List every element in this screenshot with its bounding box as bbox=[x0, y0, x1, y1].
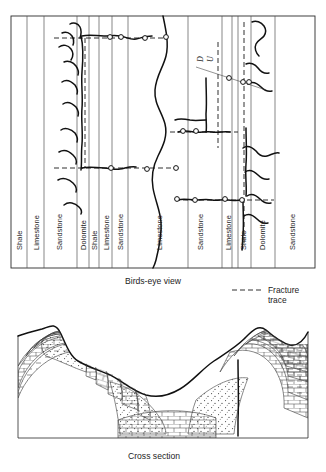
node bbox=[108, 35, 113, 40]
unit-label-dolomite-1: Dolomite bbox=[79, 220, 88, 250]
trace-right-wave-e bbox=[245, 171, 269, 180]
node bbox=[193, 198, 198, 203]
trace-right-wave-f bbox=[247, 195, 271, 204]
legend-label-line1: Fracture bbox=[268, 285, 300, 295]
unit-label-limestone-2: Limestone bbox=[102, 215, 111, 250]
node bbox=[194, 129, 199, 134]
trace-hook-j bbox=[64, 203, 81, 214]
trace-hook-e bbox=[62, 81, 77, 94]
trace-hook-d bbox=[64, 61, 78, 75]
unit-label-sandstone-1: Sandstone bbox=[55, 214, 64, 250]
trace-right-wave-b bbox=[246, 63, 269, 73]
trace-hook-f bbox=[63, 103, 78, 116]
unit-label-shale-3: Shale bbox=[239, 231, 248, 250]
unit-label-limestone-4: Limestone bbox=[224, 215, 233, 250]
trace-top-hook-b bbox=[62, 32, 74, 45]
trace-dolomite-west-edge bbox=[81, 36, 83, 170]
trace-hook-i bbox=[58, 179, 76, 192]
birdseye-caption: Birds-eye view bbox=[125, 276, 182, 286]
node bbox=[145, 167, 150, 172]
fracture-lines bbox=[54, 22, 274, 245]
trace-top-hook-c bbox=[59, 45, 73, 60]
node bbox=[174, 166, 179, 171]
node bbox=[240, 198, 245, 203]
unit-label-shale-2: Shale bbox=[90, 231, 99, 250]
unit-label-sandstone-3: Sandstone bbox=[196, 214, 205, 250]
node bbox=[175, 197, 180, 202]
unit-label-limestone-1: Limestone bbox=[32, 215, 41, 250]
trace-right-wave-top bbox=[252, 21, 266, 56]
trace-upper-horizontal bbox=[82, 35, 152, 39]
node bbox=[143, 36, 148, 41]
unit-label-limestone-3: Limestone bbox=[155, 215, 164, 250]
fault-down-label: D bbox=[196, 56, 205, 63]
section-strata bbox=[18, 328, 309, 438]
node bbox=[181, 129, 186, 134]
node bbox=[241, 80, 246, 85]
unit-label-dolomite-2: Dolomite bbox=[258, 220, 267, 250]
geologic-figure: D U Shale Limestone Sandstone Dolomite S… bbox=[0, 0, 326, 472]
legend: Fracture trace bbox=[232, 285, 300, 305]
outcrop-traces bbox=[58, 21, 279, 250]
trace-hook-h bbox=[59, 151, 76, 164]
node bbox=[227, 76, 232, 81]
figure-svg: D U Shale Limestone Sandstone Dolomite S… bbox=[0, 0, 326, 472]
cross-section-caption: Cross section bbox=[128, 451, 180, 461]
trace-right-vertical-a bbox=[246, 128, 247, 196]
fault-up-label: U bbox=[206, 55, 215, 62]
node bbox=[247, 80, 252, 85]
unit-label-sandstone-2: Sandstone bbox=[116, 214, 125, 250]
bedding-contacts bbox=[27, 16, 275, 268]
trace-right-wave-d bbox=[243, 147, 279, 157]
birdseye-view: D U Shale Limestone Sandstone Dolomite S… bbox=[11, 16, 315, 286]
unit-label-sandstone-4: Sandstone bbox=[288, 214, 297, 250]
trace-hook-g bbox=[61, 129, 77, 142]
node bbox=[109, 166, 114, 171]
node bbox=[164, 35, 169, 40]
unit-label-shale-1: Shale bbox=[15, 231, 24, 250]
node bbox=[223, 197, 228, 202]
legend-label-line2: trace bbox=[268, 295, 287, 305]
trace-right-wave-c bbox=[248, 83, 272, 92]
trace-mid-step-top bbox=[175, 119, 206, 121]
right-anticline bbox=[188, 328, 309, 436]
unit-labels: Shale Limestone Sandstone Dolomite Shale… bbox=[15, 214, 297, 250]
cross-section: Cross section bbox=[18, 326, 309, 461]
node bbox=[119, 35, 124, 40]
